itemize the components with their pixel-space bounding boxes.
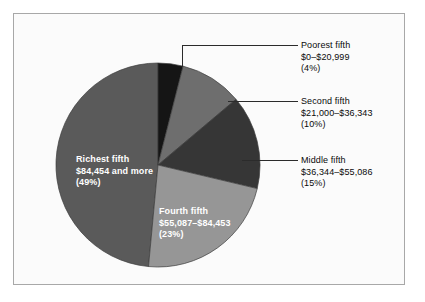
leader-line-middle-fifth [242,160,298,161]
slice-label-second-fifth-percent: (10%) [301,119,373,131]
leader-line-poorest-fifth-horizontal [182,45,298,46]
chart-frame: Poorest fifth $0–$20,999 (4%) Second fif… [13,13,405,285]
slice-label-middle-fifth-range: $36,344–$55,086 [301,167,373,179]
slice-label-poorest-fifth-name: Poorest fifth [301,40,350,52]
slice-label-poorest-fifth-percent: (4%) [301,63,350,75]
slice-label-middle-fifth: Middle fifth $36,344–$55,086 (15%) [301,155,373,190]
slice-label-second-fifth: Second fifth $21,000–$36,343 (10%) [301,96,373,131]
slice-label-richest-fifth-percent: (49%) [76,177,153,189]
slice-label-richest-fifth: Richest fifth $84,454 and more (49%) [76,154,153,189]
slice-label-richest-fifth-name: Richest fifth [76,154,153,166]
slice-label-fourth-fifth-percent: (23%) [159,229,231,241]
slice-label-second-fifth-name: Second fifth [301,96,373,108]
slice-label-richest-fifth-range: $84,454 and more [76,166,153,178]
slice-label-middle-fifth-percent: (15%) [301,178,373,190]
slice-label-fourth-fifth: Fourth fifth $55,087–$84,453 (23%) [159,206,231,241]
pie-chart-screenshot: Poorest fifth $0–$20,999 (4%) Second fif… [0,0,425,302]
slice-label-middle-fifth-name: Middle fifth [301,155,373,167]
leader-line-second-fifth [228,101,298,102]
slice-label-poorest-fifth-range: $0–$20,999 [301,52,350,64]
slice-label-fourth-fifth-name: Fourth fifth [159,206,231,218]
slice-label-second-fifth-range: $21,000–$36,343 [301,108,373,120]
slice-label-fourth-fifth-range: $55,087–$84,453 [159,218,231,230]
leader-line-poorest-fifth-vertical [182,45,183,67]
slice-label-poorest-fifth: Poorest fifth $0–$20,999 (4%) [301,40,350,75]
